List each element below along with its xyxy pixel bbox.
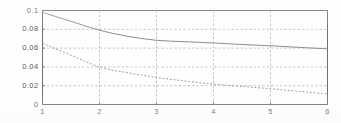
- x-tick-label: 5: [261, 108, 281, 116]
- y-tick-label: 0.06: [22, 44, 38, 52]
- y-tick-label: 0.04: [22, 63, 38, 71]
- y-tick-label: 0.08: [22, 25, 38, 33]
- line-chart-plot: [0, 0, 341, 123]
- x-tick-label: 6: [318, 108, 338, 116]
- chart-figure: 00.020.040.060.080.1 123456: [0, 0, 341, 123]
- x-tick-label: 2: [90, 108, 110, 116]
- y-tick-label: 0.02: [22, 82, 38, 90]
- x-tick-label: 1: [33, 108, 53, 116]
- x-tick-label: 3: [147, 108, 167, 116]
- x-tick-label: 4: [204, 108, 224, 116]
- y-tick-label: 0.1: [27, 7, 39, 15]
